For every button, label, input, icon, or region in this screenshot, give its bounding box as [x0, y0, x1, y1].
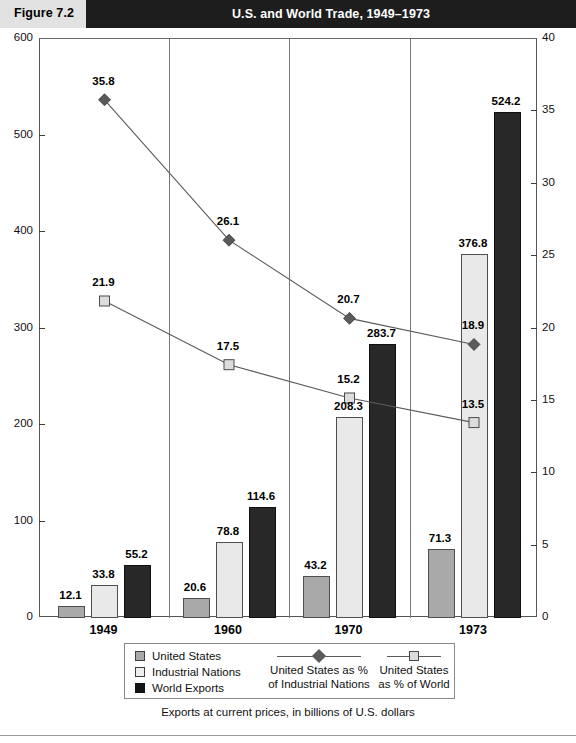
square-marker-icon: [469, 418, 479, 428]
bar-value-label: 78.8: [203, 525, 254, 537]
legend-series-diamond-line2: of Industrial Nations: [265, 677, 373, 691]
bar-value-label: 114.6: [236, 490, 287, 502]
bar-value-label: 55.2: [111, 548, 162, 560]
left-axis-label: 300: [0, 321, 33, 333]
right-axis-label: 25: [542, 248, 576, 260]
bar-value-label: 71.3: [415, 532, 466, 544]
left-axis-label: 0: [0, 610, 33, 622]
bar-value-label: 376.8: [448, 237, 499, 249]
left-axis-label: 500: [0, 128, 33, 140]
left-axis-tick: [39, 135, 45, 136]
left-axis-label: 600: [0, 31, 33, 43]
left-axis-label: 200: [0, 417, 33, 429]
right-axis-label: 0: [542, 610, 576, 622]
legend-swatch-icon: [135, 683, 145, 693]
legend-item-world: World Exports: [135, 681, 275, 696]
legend-item-label: United States: [152, 649, 221, 664]
line-value-label: 21.9: [74, 276, 134, 288]
line-value-label: 13.5: [443, 398, 503, 410]
right-axis-label: 10: [542, 465, 576, 477]
legend-swatch-icon: [135, 667, 145, 677]
left-axis-tick: [39, 521, 45, 522]
legend-swatch-icon: [135, 651, 145, 661]
legend-series-square-line2: as % of World: [375, 677, 453, 691]
diamond-marker-icon: [344, 312, 356, 324]
line-value-label: 15.2: [319, 373, 379, 385]
legend-bar-items: United StatesIndustrial NationsWorld Exp…: [135, 649, 275, 697]
bar-value-label: 283.7: [356, 327, 407, 339]
figure-title-block: U.S. and World Trade, 1949–1973: [86, 0, 576, 28]
bar-value-label: 208.3: [323, 400, 374, 412]
footer-divider: [0, 735, 576, 736]
line-path-square: [105, 301, 475, 423]
square-marker-icon: [100, 296, 110, 306]
left-axis-tick: [39, 328, 45, 329]
line-value-label: 35.8: [74, 75, 134, 87]
x-axis-label-1960: 1960: [188, 623, 268, 637]
square-marker-icon: [375, 649, 453, 663]
line-value-label: 18.9: [443, 319, 503, 331]
left-axis-label: 400: [0, 224, 33, 236]
right-axis-label: 35: [542, 103, 576, 115]
line-value-label: 20.7: [319, 293, 379, 305]
left-axis-label: 100: [0, 514, 33, 526]
figure-header: Figure 7.2 U.S. and World Trade, 1949–19…: [0, 0, 576, 28]
legend-series-square: United States as % of World: [375, 649, 453, 691]
bar-value-label: 20.6: [170, 581, 221, 593]
right-axis-label: 40: [542, 31, 576, 43]
right-axis-tick: [531, 110, 537, 111]
right-axis-label: 30: [542, 176, 576, 188]
x-axis-label-1970: 1970: [309, 623, 389, 637]
line-value-label: 26.1: [198, 215, 258, 227]
right-axis-tick: [531, 328, 537, 329]
legend-series-diamond: United States as % of Industrial Nations: [265, 649, 373, 691]
right-axis-tick: [531, 255, 537, 256]
figure-container: Figure 7.2 U.S. and World Trade, 1949–19…: [0, 0, 576, 743]
right-axis-tick: [531, 472, 537, 473]
legend-series-diamond-line1: United States as %: [265, 663, 373, 677]
figure-number-block: Figure 7.2: [0, 0, 86, 28]
legend-series-square-line1: United States: [375, 663, 453, 677]
square-marker-icon: [224, 360, 234, 370]
figure-caption: Exports at current prices, in billions o…: [0, 706, 576, 718]
diamond-marker-icon: [468, 338, 480, 350]
right-axis-label: 15: [542, 393, 576, 405]
bar-value-label: 524.2: [481, 95, 532, 107]
line-path-diamond: [105, 100, 475, 345]
right-axis-tick: [531, 400, 537, 401]
bar-value-label: 12.1: [45, 589, 96, 601]
line-value-label: 17.5: [198, 340, 258, 352]
left-axis-tick: [39, 424, 45, 425]
x-axis-label-1973: 1973: [433, 623, 513, 637]
x-axis-label-1949: 1949: [64, 623, 144, 637]
legend-item-label: World Exports: [152, 681, 224, 696]
figure-number: Figure 7.2: [14, 6, 74, 20]
right-axis-tick: [531, 183, 537, 184]
right-axis-label: 20: [542, 321, 576, 333]
bar-value-label: 43.2: [290, 559, 341, 571]
legend-item-ind: Industrial Nations: [135, 665, 275, 680]
right-axis-tick: [531, 545, 537, 546]
bar-value-label: 33.8: [78, 568, 129, 580]
left-axis-tick: [39, 231, 45, 232]
legend-item-label: Industrial Nations: [152, 665, 241, 680]
figure-title: U.S. and World Trade, 1949–1973: [86, 0, 576, 28]
diamond-marker-icon: [265, 649, 373, 663]
right-axis-label: 5: [542, 538, 576, 550]
legend: United StatesIndustrial NationsWorld Exp…: [124, 643, 455, 699]
legend-item-us: United States: [135, 649, 275, 664]
